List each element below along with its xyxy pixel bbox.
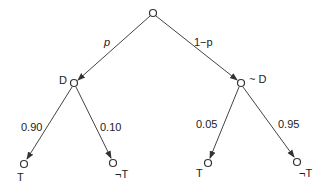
notD-node: [238, 80, 245, 87]
edge-label-0-90: 0.90: [21, 122, 42, 133]
D-T-leaf-node: [21, 161, 28, 168]
edge-label-1-minus-p: 1−p: [194, 37, 213, 48]
edge-label-0-10: 0.10: [100, 122, 121, 133]
node-label-notD: ~ D: [249, 74, 266, 85]
notD-T-leaf-node: [205, 160, 212, 167]
edge-label-0-05: 0.05: [196, 119, 217, 130]
leaf-label-notD-notT: ¬T: [299, 168, 312, 179]
leaf-label-D-notT: ¬T: [115, 169, 128, 180]
probability-tree-diagram: p 1−p 0.90 0.10 0.05 0.95 D ~ D T ¬T T ¬…: [0, 0, 328, 190]
edge-label-0-95: 0.95: [278, 119, 299, 130]
edge-label-p: p: [104, 37, 110, 48]
edge-root-notD: [156, 16, 237, 80]
node-label-D: D: [59, 75, 67, 86]
root-node: [150, 10, 157, 17]
D-notT-leaf-node: [110, 160, 117, 167]
leaf-label-notD-T: T: [196, 168, 203, 179]
notD-notT-leaf-node: [294, 159, 301, 166]
edge-root-D: [78, 16, 150, 80]
tree-edges-svg: [0, 0, 328, 190]
D-node: [71, 80, 78, 87]
leaf-label-D-T: T: [17, 172, 24, 183]
